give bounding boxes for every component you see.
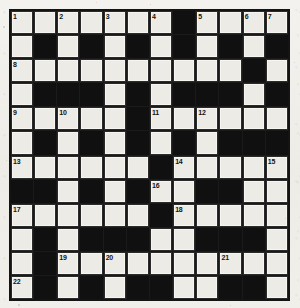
crossword-letter-cell[interactable] xyxy=(173,228,195,251)
crossword-letter-cell[interactable] xyxy=(173,59,195,82)
crossword-letter-cell[interactable] xyxy=(104,107,126,130)
crossword-letter-cell[interactable] xyxy=(11,252,33,275)
crossword-letter-cell[interactable] xyxy=(127,11,149,34)
crossword-letter-cell[interactable] xyxy=(57,204,79,227)
crossword-letter-cell[interactable] xyxy=(243,156,265,179)
crossword-letter-cell[interactable] xyxy=(150,59,172,82)
crossword-letter-cell[interactable] xyxy=(173,252,195,275)
crossword-letter-cell[interactable] xyxy=(266,107,288,130)
crossword-letter-cell[interactable]: 5 xyxy=(196,11,218,34)
crossword-letter-cell[interactable]: 1 xyxy=(11,11,33,34)
crossword-letter-cell[interactable]: 18 xyxy=(173,204,195,227)
crossword-letter-cell[interactable] xyxy=(11,83,33,106)
crossword-letter-cell[interactable] xyxy=(127,252,149,275)
crossword-letter-cell[interactable] xyxy=(104,131,126,154)
crossword-letter-cell[interactable] xyxy=(196,35,218,58)
crossword-letter-cell[interactable] xyxy=(219,107,241,130)
crossword-letter-cell[interactable] xyxy=(219,156,241,179)
crossword-letter-cell[interactable]: 10 xyxy=(57,107,79,130)
crossword-letter-cell[interactable] xyxy=(57,228,79,251)
crossword-letter-cell[interactable] xyxy=(196,252,218,275)
crossword-letter-cell[interactable] xyxy=(196,156,218,179)
crossword-letter-cell[interactable] xyxy=(80,204,102,227)
crossword-letter-cell[interactable] xyxy=(34,107,56,130)
crossword-letter-cell[interactable] xyxy=(243,204,265,227)
crossword-letter-cell[interactable] xyxy=(34,204,56,227)
crossword-letter-cell[interactable] xyxy=(127,59,149,82)
crossword-letter-cell[interactable] xyxy=(57,59,79,82)
crossword-letter-cell[interactable]: 7 xyxy=(266,11,288,34)
crossword-letter-cell[interactable] xyxy=(196,131,218,154)
crossword-letter-cell[interactable]: 16 xyxy=(150,180,172,203)
crossword-letter-cell[interactable] xyxy=(173,180,195,203)
clue-number: 9 xyxy=(13,108,17,117)
crossword-letter-cell[interactable] xyxy=(104,83,126,106)
crossword-letter-cell[interactable]: 21 xyxy=(219,252,241,275)
crossword-letter-cell[interactable] xyxy=(80,107,102,130)
crossword-letter-cell[interactable]: 6 xyxy=(243,11,265,34)
crossword-letter-cell[interactable]: 14 xyxy=(173,156,195,179)
crossword-letter-cell[interactable] xyxy=(57,156,79,179)
crossword-letter-cell[interactable] xyxy=(57,35,79,58)
crossword-letter-cell[interactable] xyxy=(219,59,241,82)
crossword-letter-cell[interactable]: 12 xyxy=(196,107,218,130)
crossword-letter-cell[interactable] xyxy=(80,11,102,34)
crossword-letter-cell[interactable] xyxy=(150,83,172,106)
crossword-letter-cell[interactable] xyxy=(243,35,265,58)
crossword-letter-cell[interactable] xyxy=(80,156,102,179)
crossword-letter-cell[interactable]: 19 xyxy=(57,252,79,275)
crossword-letter-cell[interactable] xyxy=(57,131,79,154)
crossword-letter-cell[interactable] xyxy=(266,59,288,82)
crossword-letter-cell[interactable]: 15 xyxy=(266,156,288,179)
crossword-letter-cell[interactable] xyxy=(127,204,149,227)
crossword-letter-cell[interactable] xyxy=(104,276,126,299)
crossword-letter-cell[interactable] xyxy=(150,35,172,58)
crossword-letter-cell[interactable] xyxy=(266,228,288,251)
crossword-letter-cell[interactable] xyxy=(11,131,33,154)
crossword-letter-cell[interactable]: 11 xyxy=(150,107,172,130)
crossword-letter-cell[interactable] xyxy=(80,252,102,275)
crossword-letter-cell[interactable]: 8 xyxy=(11,59,33,82)
crossword-letter-cell[interactable]: 4 xyxy=(150,11,172,34)
crossword-letter-cell[interactable]: 3 xyxy=(104,11,126,34)
crossword-grid[interactable]: 12345678910111213141516171819202122 xyxy=(11,11,288,299)
crossword-letter-cell[interactable] xyxy=(196,276,218,299)
crossword-letter-cell[interactable] xyxy=(196,204,218,227)
crossword-letter-cell[interactable] xyxy=(219,11,241,34)
crossword-letter-cell[interactable] xyxy=(196,59,218,82)
crossword-letter-cell[interactable] xyxy=(266,276,288,299)
crossword-letter-cell[interactable] xyxy=(266,180,288,203)
crossword-letter-cell[interactable] xyxy=(34,59,56,82)
crossword-letter-cell[interactable] xyxy=(243,107,265,130)
crossword-letter-cell[interactable] xyxy=(104,156,126,179)
crossword-letter-cell[interactable] xyxy=(104,59,126,82)
crossword-letter-cell[interactable] xyxy=(243,180,265,203)
crossword-letter-cell[interactable] xyxy=(11,228,33,251)
crossword-letter-cell[interactable]: 2 xyxy=(57,11,79,34)
crossword-letter-cell[interactable] xyxy=(34,11,56,34)
crossword-letter-cell[interactable] xyxy=(57,180,79,203)
crossword-letter-cell[interactable] xyxy=(219,204,241,227)
crossword-letter-cell[interactable]: 13 xyxy=(11,156,33,179)
crossword-letter-cell[interactable] xyxy=(173,107,195,130)
crossword-letter-cell[interactable] xyxy=(150,252,172,275)
crossword-letter-cell[interactable] xyxy=(104,204,126,227)
crossword-letter-cell[interactable] xyxy=(80,59,102,82)
crossword-letter-cell[interactable] xyxy=(173,276,195,299)
crossword-letter-cell[interactable] xyxy=(127,156,149,179)
crossword-letter-cell[interactable] xyxy=(266,204,288,227)
crossword-letter-cell[interactable] xyxy=(266,252,288,275)
crossword-letter-cell[interactable] xyxy=(104,35,126,58)
crossword-letter-cell[interactable] xyxy=(11,35,33,58)
crossword-letter-cell[interactable] xyxy=(150,228,172,251)
crossword-letter-cell[interactable] xyxy=(150,131,172,154)
crossword-letter-cell[interactable] xyxy=(57,276,79,299)
crossword-letter-cell[interactable] xyxy=(243,252,265,275)
crossword-letter-cell[interactable] xyxy=(243,83,265,106)
crossword-letter-cell[interactable]: 17 xyxy=(11,204,33,227)
crossword-letter-cell[interactable] xyxy=(104,180,126,203)
crossword-letter-cell[interactable]: 22 xyxy=(11,276,33,299)
crossword-letter-cell[interactable] xyxy=(34,156,56,179)
crossword-letter-cell[interactable]: 20 xyxy=(104,252,126,275)
crossword-letter-cell[interactable]: 9 xyxy=(11,107,33,130)
